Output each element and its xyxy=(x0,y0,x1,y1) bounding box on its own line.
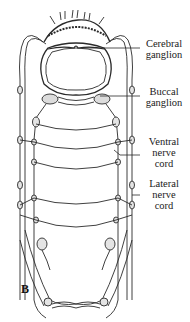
left-lateral-outer xyxy=(20,35,44,300)
label-line: Ventral xyxy=(140,136,188,147)
label-line: cord xyxy=(140,200,188,211)
label-line: Buccal xyxy=(140,86,188,97)
label-buccal-ganglion: Buccal ganglion xyxy=(140,86,188,108)
tentacles xyxy=(50,10,104,24)
label-line: nerve xyxy=(140,189,188,200)
label-line: ganglion xyxy=(140,49,188,60)
label-line: ganglion xyxy=(140,97,188,108)
right-lateral-outer xyxy=(109,35,133,300)
label-line: Lateral xyxy=(140,178,188,189)
label-lateral-nerve-cord: Lateral nerve cord xyxy=(140,178,188,211)
label-line: Cerebral xyxy=(140,38,188,49)
buccal-ganglion-right xyxy=(94,94,110,104)
label-line: cord xyxy=(140,158,188,169)
ventral-nerve-cord-right xyxy=(106,104,118,318)
label-ventral-nerve-cord: Ventral nerve cord xyxy=(140,136,188,169)
lateral-ganglia xyxy=(18,86,135,209)
ventral-ganglia xyxy=(32,117,121,250)
panel-letter: B xyxy=(21,282,29,297)
cerebral-ganglion xyxy=(41,43,111,95)
commissures xyxy=(20,124,132,227)
label-line: nerve xyxy=(140,147,188,158)
buccal-ganglion-left xyxy=(42,94,58,104)
label-cerebral-ganglion: Cerebral ganglion xyxy=(140,38,188,60)
ventral-nerve-cord-left xyxy=(34,104,46,318)
